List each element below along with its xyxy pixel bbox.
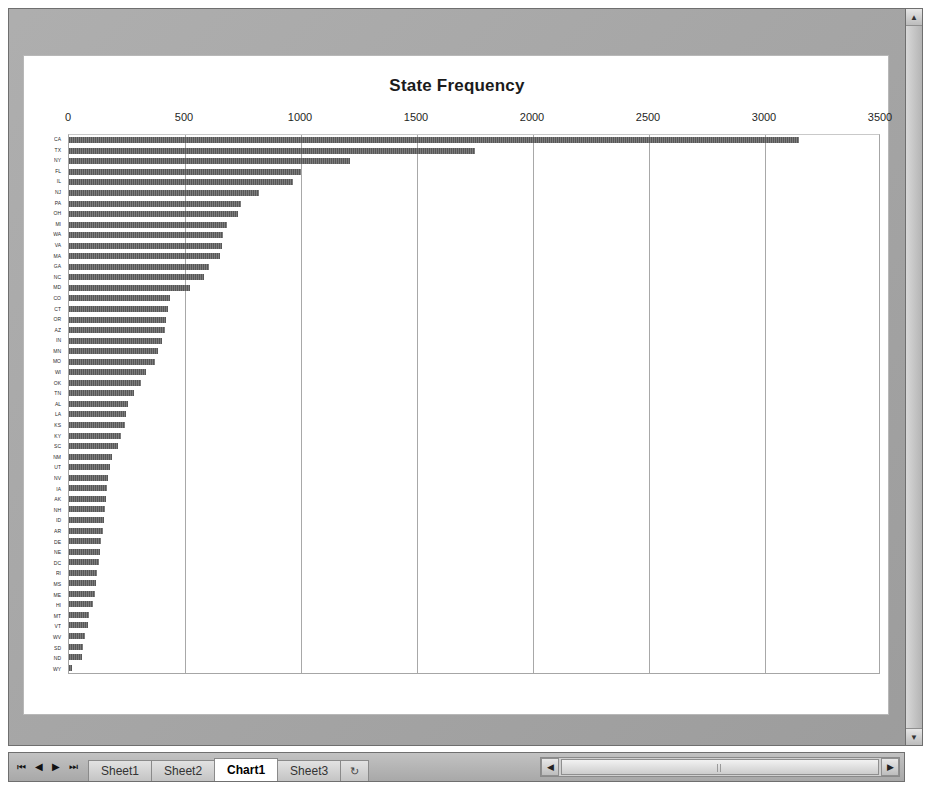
last-sheet-icon[interactable]: ⏭ [69,762,78,772]
vertical-scrollbar[interactable]: ▲ ▼ [905,8,923,746]
chart-workspace: State Frequency 050010001500200025003000… [8,8,905,746]
bar-row [69,219,879,230]
x-tick-label: 3500 [868,111,892,123]
bar[interactable] [69,464,110,470]
bar-row [69,156,879,167]
bar[interactable] [69,222,227,228]
bar[interactable] [69,390,134,396]
bar[interactable] [69,454,112,460]
bar-row [69,177,879,188]
bar[interactable] [69,612,89,618]
sheet-tab-sheet3[interactable]: Sheet3 [277,760,341,781]
sheet-tab-chart1[interactable]: Chart1 [214,758,278,781]
bar-row [69,367,879,378]
sheet-tab-sheet1[interactable]: Sheet1 [88,760,152,781]
bar[interactable] [69,359,155,365]
scroll-up-icon[interactable]: ▲ [906,9,922,26]
bar-row [69,240,879,251]
bar[interactable] [69,559,99,565]
first-sheet-icon[interactable]: ⏮ [17,762,26,772]
bar[interactable] [69,528,103,534]
bar-row [69,167,879,178]
horizontal-scrollbar[interactable]: ◀ ▶ [540,757,900,777]
bar[interactable] [69,496,106,502]
bar[interactable] [69,369,146,375]
bar-row [69,230,879,241]
bar[interactable] [69,549,100,555]
bar[interactable] [69,401,128,407]
bar[interactable] [69,306,168,312]
chart-title: State Frequency [24,76,890,96]
bar-row [69,399,879,410]
bar[interactable] [69,633,85,639]
bar[interactable] [69,137,799,143]
bar[interactable] [69,327,165,333]
bar-row [69,610,879,621]
bar[interactable] [69,538,101,544]
bar[interactable] [69,411,126,417]
x-tick-label: 1500 [404,111,428,123]
bar[interactable] [69,243,222,249]
bar[interactable] [69,264,209,270]
bar[interactable] [69,285,190,291]
bar-row [69,589,879,600]
plot-area[interactable] [68,134,880,674]
bar[interactable] [69,422,125,428]
bar[interactable] [69,211,238,217]
bar[interactable] [69,644,83,650]
bar[interactable] [69,485,107,491]
bar[interactable] [69,665,72,671]
bar[interactable] [69,580,96,586]
bar[interactable] [69,591,95,597]
bar[interactable] [69,443,118,449]
scroll-right-icon[interactable]: ▶ [881,758,899,776]
bar-row [69,378,879,389]
bar[interactable] [69,295,170,301]
scroll-down-icon[interactable]: ▼ [906,728,922,745]
prev-sheet-icon[interactable]: ◀ [35,762,43,772]
bar[interactable] [69,338,162,344]
horizontal-scroll-thumb[interactable] [561,759,879,775]
bar[interactable] [69,232,223,238]
excel-window: State Frequency 050010001500200025003000… [0,0,927,792]
bar-row [69,620,879,631]
sheet-tabs: Sheet1Sheet2Chart1Sheet3↻ [84,753,368,781]
bar[interactable] [69,433,121,439]
bar-row [69,451,879,462]
bar[interactable] [69,317,166,323]
bar[interactable] [69,622,88,628]
scroll-left-icon[interactable]: ◀ [541,758,559,776]
bar[interactable] [69,601,93,607]
bar-row [69,515,879,526]
x-tick-label: 0 [65,111,71,123]
bar[interactable] [69,148,475,154]
bar-row [69,578,879,589]
sheet-tab-sheet2[interactable]: Sheet2 [151,760,215,781]
bar[interactable] [69,380,141,386]
bar[interactable] [69,201,241,207]
bar[interactable] [69,190,259,196]
chart-area[interactable]: State Frequency 050010001500200025003000… [23,55,889,715]
bar[interactable] [69,348,158,354]
bar[interactable] [69,253,220,259]
bar[interactable] [69,169,301,175]
x-tick-label: 1000 [288,111,312,123]
bar-row [69,652,879,663]
bar[interactable] [69,179,293,185]
bar[interactable] [69,506,105,512]
bar[interactable] [69,475,108,481]
bar-row [69,483,879,494]
bar[interactable] [69,158,350,164]
vertical-scroll-track[interactable] [906,26,922,728]
bar[interactable] [69,570,97,576]
bar-row [69,641,879,652]
next-sheet-icon[interactable]: ▶ [52,762,60,772]
bar[interactable] [69,274,204,280]
bar-row [69,473,879,484]
bar[interactable] [69,517,104,523]
insert-sheet-tab[interactable]: ↻ [340,760,369,781]
sheet-nav-buttons: ⏮ ◀ ▶ ⏭ [9,753,84,781]
bar[interactable] [69,654,82,660]
bar-row [69,356,879,367]
bar-row [69,557,879,568]
